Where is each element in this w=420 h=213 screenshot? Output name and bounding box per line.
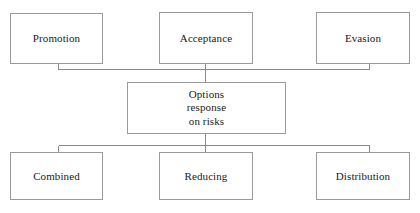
node-promotion: Promotion [10,13,103,64]
node-evasion-label: Evasion [345,32,381,45]
node-combined-label: Combined [33,170,80,183]
node-distribution-label: Distribution [336,170,390,183]
node-acceptance-label: Acceptance [180,32,232,45]
node-options-response-on-risks: Options response on risks [127,82,286,134]
node-evasion: Evasion [316,12,410,64]
node-reducing: Reducing [159,152,253,200]
node-reducing-label: Reducing [185,170,228,183]
node-center-label: Options response on risks [187,88,226,129]
node-promotion-label: Promotion [33,32,80,45]
node-combined: Combined [10,152,103,200]
node-distribution: Distribution [316,152,410,200]
node-acceptance: Acceptance [159,12,253,64]
diagram-canvas: Promotion Acceptance Evasion Options res… [0,0,420,213]
